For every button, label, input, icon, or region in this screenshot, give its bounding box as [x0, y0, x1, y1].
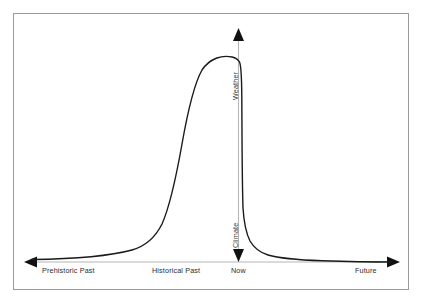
- chart-plot: [0, 0, 424, 306]
- y-axis-top-arrow-icon: [233, 28, 244, 41]
- chart-curve: [32, 56, 392, 262]
- y-axis-bottom-arrow-icon: [233, 249, 244, 262]
- x-label-historical-past: Historical Past: [152, 266, 200, 275]
- x-axis-left-arrow-icon: [24, 257, 37, 268]
- y-label-weather: Weather: [231, 72, 240, 100]
- x-label-now: Now: [231, 266, 246, 275]
- x-label-future: Future: [355, 266, 377, 275]
- x-label-prehistoric-past: Prehistoric Past: [42, 266, 95, 275]
- y-label-climate: Climate: [231, 223, 240, 248]
- figure-canvas: Prehistoric Past Historical Past Now Fut…: [0, 0, 424, 306]
